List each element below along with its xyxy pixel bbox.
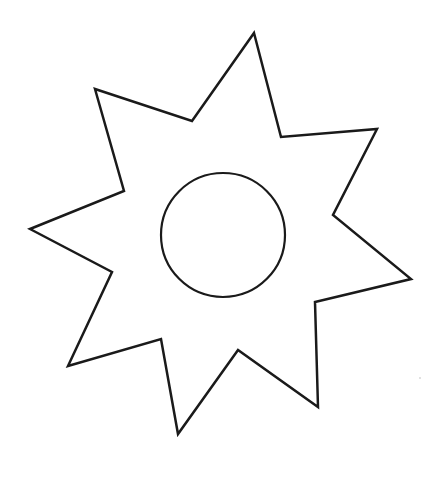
stray-dot xyxy=(419,377,421,379)
background xyxy=(0,0,436,480)
star-diagram xyxy=(0,0,436,480)
